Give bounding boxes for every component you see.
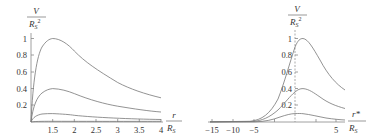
left-xtick: 4: [159, 125, 164, 135]
left-ytick: 1: [23, 34, 27, 44]
right-ylabel-denominator: RS2: [289, 16, 302, 28]
right-curve-mid: [210, 89, 345, 122]
figure: V RS2 0.2 0.4 0.6 0.8 1 1.5 2: [0, 0, 370, 140]
right-ylabel-numerator: V: [294, 4, 301, 14]
right-xtick: 5: [334, 125, 338, 135]
left-ylabel-denominator: RS2: [28, 18, 41, 30]
left-xlabel-numerator: r: [172, 110, 176, 120]
right-xtick: −5: [249, 125, 258, 135]
right-xtick: −10: [226, 125, 239, 135]
left-xtick: 3: [116, 125, 120, 135]
right-curve-high: [210, 39, 345, 122]
left-ytick: 0.8: [16, 50, 27, 60]
left-xtick: 2: [72, 125, 76, 135]
left-ytick: 0.2: [16, 100, 27, 110]
right-ytick: 0.8: [281, 50, 292, 60]
right-curve-low: [210, 113, 345, 122]
right-xlabel-denominator: RS: [348, 123, 358, 134]
right-ytick: 0.6: [281, 67, 292, 77]
left-xtick: 2.5: [91, 125, 102, 135]
left-xtick: 1.5: [47, 125, 58, 135]
left-ytick: 0.4: [16, 84, 27, 94]
left-ytick: 0.6: [16, 67, 27, 77]
left-xtick: 3.5: [134, 125, 145, 135]
left-xlabel-denominator: RS: [166, 123, 176, 134]
right-plot: V RS2 0.2 0.4 0.6 0.8 1 −15 −: [205, 4, 366, 135]
left-ylabel-numerator: V: [33, 6, 40, 16]
right-xlabel-numerator: r*: [352, 109, 361, 119]
right-xtick: −15: [205, 125, 218, 135]
left-plot: V RS2 0.2 0.4 0.6 0.8 1 1.5 2: [16, 6, 182, 135]
right-ytick: 1: [288, 34, 292, 44]
